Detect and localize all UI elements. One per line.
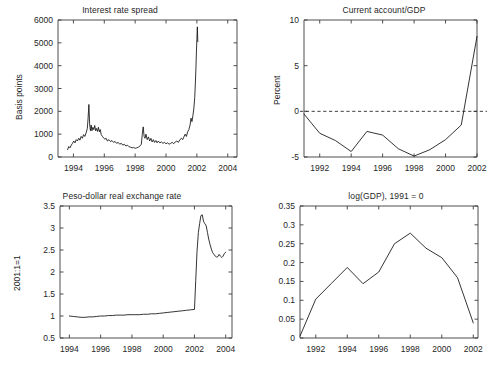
axis-tick-label: 2002 [185,344,204,354]
axis-tick-label: 6000 [34,15,53,25]
axis-element [300,206,478,338]
axis-tick-label: 1994 [338,344,357,354]
axis-tick-label: 2000 [34,106,53,116]
axis-tick-label: 2000 [432,344,451,354]
axis-tick-label: 10 [290,15,300,25]
axis-tick-label: 0.15 [278,276,295,286]
axis-tick-label: 1.5 [43,289,55,299]
axis-tick-label: 1994 [342,163,361,173]
axis-tick-label: 2000 [157,163,176,173]
axis-tick-label: 3000 [34,84,53,94]
axis-tick-label: 0.5 [43,333,55,343]
axis-tick-label: 1996 [95,163,114,173]
axis-tick-label: 1996 [369,344,388,354]
axis-tick-label: 3.5 [43,201,55,211]
axis-tick-label: 0.1 [283,295,295,305]
axis-tick-label: -5 [291,152,299,162]
figure-multi-panel-chart: Interest rate spread Basis points 010002… [0,0,504,371]
data-series-line [69,215,225,318]
axis-tick-label: 2002 [468,163,487,173]
axis-tick-label: 1998 [126,163,145,173]
axis-tick-label: 5000 [34,38,53,48]
axis-tick-label: 1998 [401,344,420,354]
panel-peso-dollar-exchange-rate: Peso-dollar real exchange rate 2001:1=1 … [0,186,252,371]
axis-tick-label: 2000 [436,163,455,173]
axis-tick-label: 2000 [154,344,173,354]
axis-tick-label: 0.05 [278,314,295,324]
panel-log-gdp: log(GDP), 1991 = 0 00.050.10.150.20.250.… [252,186,504,371]
axis-tick-label: 0.3 [283,220,295,230]
plot-area-interest-rate-spread: 0100020003000400050006000199419961998200… [0,0,252,186]
plot-area-current-account-gdp: -50510199219941996199820002002 [252,0,504,186]
axis-tick-label: 2.5 [43,245,55,255]
axis-tick-label: 4000 [34,61,53,71]
axis-tick-label: 1994 [64,163,83,173]
axis-tick-label: 3 [50,223,55,233]
axis-tick-label: 2002 [464,344,483,354]
data-series-line [300,233,473,336]
axis-tick-label: 0 [294,106,299,116]
axis-tick-label: 1996 [91,344,110,354]
axis-element [300,206,478,338]
axis-tick-label: 1000 [34,129,53,139]
axis-tick-label: 0.25 [278,239,295,249]
axis-tick-label: 0 [48,152,53,162]
plot-area-peso-dollar-exchange-rate: 0.511.522.533.5199419961998200020022004 [0,186,252,371]
axis-tick-label: 2004 [216,344,235,354]
axis-tick-label: 1998 [122,344,141,354]
data-series-line [68,27,198,150]
axis-tick-label: 2002 [187,163,206,173]
axis-tick-label: 1994 [60,344,79,354]
axis-tick-label: 1992 [310,163,329,173]
axis-tick-label: 2004 [218,163,237,173]
axis-tick-label: 1996 [373,163,392,173]
plot-area-log-gdp: 00.050.10.150.20.250.30.3519921994199619… [252,186,504,371]
axis-tick-label: 1 [50,311,55,321]
data-series-line [304,36,477,156]
axis-tick-label: 0 [290,333,295,343]
axis-tick-label: 1998 [405,163,424,173]
axis-tick-label: 2 [50,267,55,277]
axis-tick-label: 0.35 [278,201,295,211]
axis-tick-label: 1992 [306,344,325,354]
panel-current-account-gdp: Current account/GDP Percent -50510199219… [252,0,504,186]
axis-tick-label: 5 [294,61,299,71]
axis-element [304,20,477,157]
axis-tick-label: 0.2 [283,258,295,268]
panel-interest-rate-spread: Interest rate spread Basis points 010002… [0,0,252,186]
axis-element [304,20,477,157]
